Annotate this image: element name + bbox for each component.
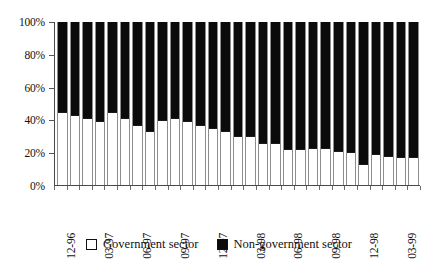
bar-slot [232,22,245,185]
bar-slot [69,22,82,185]
stacked-bar [95,22,106,185]
stacked-bar [57,22,68,185]
x-axis-tick-mark [281,186,282,190]
bar-slot [156,22,169,185]
bar-segment-non-government [234,22,243,136]
bar-segment-government [372,154,381,185]
x-axis-tick-mark [205,186,206,190]
black-square-icon [217,239,228,250]
stacked-bar [220,22,231,185]
y-axis-tick-label: 60% [25,82,45,94]
x-axis-tick-mark [395,186,396,190]
bar-segment-government [183,121,192,185]
bar-segment-non-government [397,22,406,157]
stacked-bar [358,22,369,185]
bar-slot [169,22,182,185]
bar-segment-government [96,121,105,185]
bar-segment-government [234,136,243,185]
x-axis-tick-mark [306,186,307,190]
stacked-bar [208,22,219,185]
stacked-bar [371,22,382,185]
x-axis-tick-mark [420,186,421,190]
y-axis: 0%20%40%60%80%100% [0,0,52,263]
stacked-bar [333,22,344,185]
bar-segment-government [146,131,155,185]
legend-item: Government sector [86,237,198,252]
bar-segment-government [409,157,418,185]
bar-segment-non-government [372,22,381,154]
x-axis-tick-mark [117,186,118,190]
x-axis-tick-mark [155,186,156,190]
bar-segment-non-government [71,22,80,115]
bar-segment-non-government [384,22,393,156]
bar-segment-government [58,112,67,185]
bar-segment-non-government [259,22,268,143]
x-axis-tick-mark [231,186,232,190]
stacked-bar-chart: 0%20%40%60%80%100% 12-9603-9706-9709-971… [0,0,438,263]
bar-slot [119,22,132,185]
bar-segment-non-government [133,22,142,125]
bar-segment-non-government [296,22,305,149]
x-axis-tick-mark [294,186,295,190]
bar-segment-non-government [271,22,280,143]
x-axis-tick-mark [180,186,181,190]
stacked-bar [258,22,269,185]
bar-slot [269,22,282,185]
bar-segment-government [284,149,293,185]
bar-segment-non-government [309,22,318,148]
x-axis-tick-mark [218,186,219,190]
bar-slot [106,22,119,185]
stacked-bar [320,22,331,185]
bar-segment-non-government [121,22,130,118]
stacked-bar [346,22,357,185]
x-axis-tick-mark [142,186,143,190]
x-axis-tick-mark [407,186,408,190]
x-axis-tick-mark [344,186,345,190]
bar-segment-non-government [347,22,356,152]
x-axis-tick-mark [79,186,80,190]
stacked-bar [283,22,294,185]
bar-segment-government [296,149,305,185]
y-axis-tick-label: 100% [19,16,45,28]
bar-slot [194,22,207,185]
bar-segment-government [321,148,330,185]
bar-slot [382,22,395,185]
x-axis-tick-mark [168,186,169,190]
x-axis-tick-mark [243,186,244,190]
white-square-icon [86,239,97,250]
bar-segment-government [334,151,343,185]
bar-segment-government [121,118,130,185]
bar-segment-government [209,128,218,185]
bar-segment-government [309,148,318,185]
stacked-bar [145,22,156,185]
bar-slot [94,22,107,185]
stacked-bar [182,22,193,185]
stacked-bar [295,22,306,185]
bar-segment-government [246,136,255,185]
bar-segment-non-government [334,22,343,151]
stacked-bar [107,22,118,185]
bar-segment-government [171,118,180,185]
bar-slot [395,22,408,185]
bar-segment-government [397,157,406,185]
bar-slot [144,22,157,185]
bar-slot [207,22,220,185]
bar-segment-non-government [108,22,117,112]
bar-slot [294,22,307,185]
bar-slot [319,22,332,185]
bar-slot [370,22,383,185]
bar-slot [219,22,232,185]
x-axis-tick-mark [92,186,93,190]
bar-segment-government [221,131,230,185]
bar-segment-non-government [359,22,368,164]
bar-segment-government [347,152,356,185]
bar-segment-non-government [196,22,205,125]
bar-slot [244,22,257,185]
bar-segment-non-government [246,22,255,136]
bar-segment-non-government [321,22,330,148]
stacked-bar [82,22,93,185]
legend-item: Non-government sector [217,237,352,252]
bar-segment-government [196,125,205,185]
y-axis-tick-label: 80% [25,49,45,61]
bar-slot [81,22,94,185]
